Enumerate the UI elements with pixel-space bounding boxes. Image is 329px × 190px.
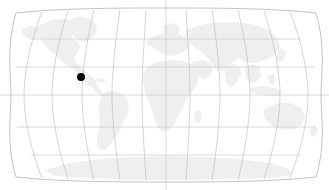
land-india xyxy=(224,64,241,88)
land-antarctica xyxy=(45,156,292,180)
land-philippines xyxy=(268,74,276,85)
landmass-layer xyxy=(22,17,318,180)
land-australia xyxy=(263,103,305,130)
marker-layer[interactable] xyxy=(77,73,85,81)
world-map-canvas[interactable] xyxy=(0,0,329,190)
land-madagascar xyxy=(194,110,202,123)
land-indonesia xyxy=(250,86,282,96)
land-caribbean xyxy=(95,78,106,82)
location-marker-dot[interactable] xyxy=(77,73,85,81)
land-africa xyxy=(143,60,199,132)
world-map-widget xyxy=(0,0,329,190)
